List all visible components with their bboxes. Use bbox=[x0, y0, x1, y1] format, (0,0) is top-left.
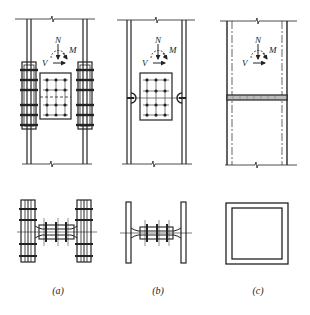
panel-label-a: (a) bbox=[52, 285, 64, 296]
panel-c-section bbox=[226, 203, 288, 264]
shear-label-b: V bbox=[142, 58, 149, 68]
axial-load-label-a: N bbox=[54, 35, 62, 45]
axial-load-label-c: N bbox=[254, 35, 262, 45]
column-splice-diagram: N M V N M V N M V bbox=[0, 0, 310, 315]
panel-label-c: (c) bbox=[252, 285, 263, 296]
shear-label-c: V bbox=[242, 58, 249, 68]
load-symbol-b bbox=[151, 44, 167, 63]
moment-label-c: M bbox=[268, 45, 277, 55]
axial-load-label-b: N bbox=[154, 35, 162, 45]
load-symbol-a bbox=[51, 44, 67, 63]
panel-b-section bbox=[120, 202, 192, 263]
shear-label-a: V bbox=[42, 58, 49, 68]
moment-label-b: M bbox=[168, 45, 177, 55]
panel-a-section bbox=[17, 200, 97, 262]
moment-label-a: M bbox=[68, 45, 77, 55]
load-symbol-c bbox=[251, 44, 267, 63]
panel-label-b: (b) bbox=[152, 285, 164, 296]
